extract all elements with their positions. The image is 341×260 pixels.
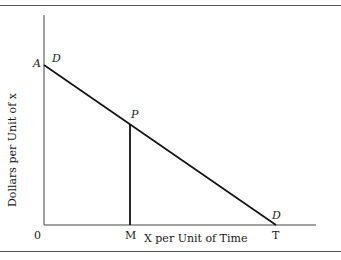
point-label-A: A [33, 58, 41, 69]
y-axis-label: Dollars per Unit of x [6, 93, 19, 207]
curve-label-D-top: D [52, 53, 61, 64]
point-label-M: M [125, 230, 136, 241]
x-axis-label: X per Unit of Time [144, 233, 247, 244]
demand-line-DD [44, 65, 276, 225]
point-label-P: P [131, 109, 138, 120]
point-label-T: T [272, 230, 279, 241]
curve-label-D-bottom: D [272, 210, 281, 221]
origin-label: 0 [34, 230, 41, 241]
diagram-canvas [0, 0, 341, 260]
